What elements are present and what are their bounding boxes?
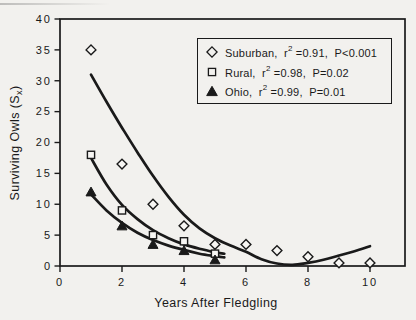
y-axis-tick-label: 10 xyxy=(36,198,52,210)
legend-text: Suburban, r xyxy=(225,47,288,59)
data-point-suburban xyxy=(148,199,158,209)
legend-item-rural: Rural, r2 =0.98, P=0.02 xyxy=(206,63,387,81)
legend-box: Suburban, r2 =0.91, P<0.001 Rural, r2 =0… xyxy=(197,38,392,104)
data-point-rural xyxy=(118,207,125,214)
legend-item-label: Suburban, r2 =0.91, P<0.001 xyxy=(225,45,377,59)
legend-superscript: 2 xyxy=(288,44,293,53)
y-axis-tick-label: 35 xyxy=(36,44,52,56)
y-axis-title-suffix: ) xyxy=(8,86,22,91)
data-point-suburban xyxy=(272,246,282,256)
legend-text: Rural, r xyxy=(225,66,266,78)
data-point-rural xyxy=(180,238,187,245)
legend-superscript: 2 xyxy=(263,83,268,92)
y-axis-title: Surviving Owls (Sx) xyxy=(8,86,25,201)
legend-superscript: 2 xyxy=(266,64,271,73)
y-axis-tick-label: 20 xyxy=(36,136,52,148)
x-axis-tick-label: 10 xyxy=(362,276,378,288)
legend-text-stats: =0.98, P=0.02 xyxy=(271,66,349,78)
x-axis-title: Years After Fledgling xyxy=(154,296,277,310)
data-point-suburban xyxy=(241,239,251,249)
x-axis-tick-label: 6 xyxy=(242,276,250,288)
fit-curve-rural xyxy=(91,158,224,254)
legend-text-stats: =0.91, P<0.001 xyxy=(293,47,378,59)
x-axis-tick-label: 8 xyxy=(304,276,312,288)
x-axis-tick-label: 2 xyxy=(118,276,126,288)
legend-item-ohio: Ohio, r2 =0.99, P=0.01 xyxy=(206,82,387,100)
filled-triangle-icon xyxy=(206,85,218,97)
legend-text-stats: =0.99, P=0.01 xyxy=(267,86,345,98)
data-point-suburban xyxy=(179,221,189,231)
owl-survivorship-figure: 05101520253035400246810 Surviving Owls (… xyxy=(0,0,416,320)
data-point-suburban xyxy=(303,252,313,262)
legend-item-suburban: Suburban, r2 =0.91, P<0.001 xyxy=(206,43,387,61)
legend-text: Ohio, r xyxy=(225,86,263,98)
data-point-rural xyxy=(87,151,94,158)
data-point-rural xyxy=(149,232,156,239)
y-axis-title-subscript: x xyxy=(14,90,24,95)
x-axis-tick-label: 4 xyxy=(180,276,188,288)
open-diamond-icon xyxy=(206,46,218,58)
legend-item-label: Ohio, r2 =0.99, P=0.01 xyxy=(225,84,346,98)
x-axis-tick-label: 0 xyxy=(56,276,64,288)
open-square-icon xyxy=(206,66,218,78)
y-axis-tick-label: 30 xyxy=(36,75,52,87)
data-point-suburban xyxy=(86,45,96,55)
data-point-suburban xyxy=(117,159,127,169)
y-axis-tick-label: 15 xyxy=(36,167,52,179)
y-axis-tick-label: 5 xyxy=(44,229,52,241)
y-axis-tick-label: 25 xyxy=(36,105,52,117)
y-axis-tick-label: 0 xyxy=(44,260,52,272)
y-axis-title-text: Surviving Owls (S xyxy=(8,95,22,200)
data-point-ohio xyxy=(86,187,96,196)
y-axis-tick-label: 40 xyxy=(36,13,52,25)
legend-item-label: Rural, r2 =0.98, P=0.02 xyxy=(225,65,349,79)
